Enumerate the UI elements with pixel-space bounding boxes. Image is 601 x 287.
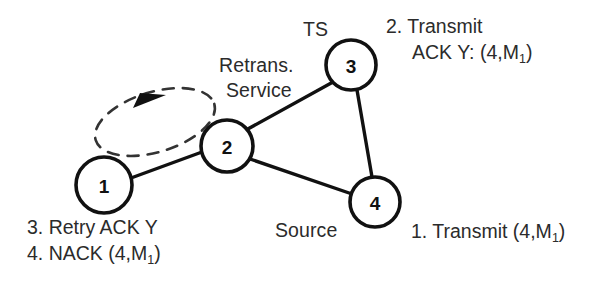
label-retrans: Retrans. — [219, 53, 294, 78]
annotation-transmit-ack-line2: ACK Y: (4,M1) — [386, 39, 532, 72]
loop-arrowhead-icon — [133, 93, 166, 108]
edge-3-4 — [357, 90, 372, 177]
annotation-transmit-line: 1. Transmit (4,M1) — [411, 218, 565, 251]
node-2[interactable]: 2 — [201, 120, 253, 172]
annotation-nack-suffix: ) — [154, 242, 161, 264]
node-2-label: 2 — [222, 137, 233, 158]
node-3[interactable]: 3 — [326, 40, 376, 90]
annotation-retry-nack: 3. Retry ACK Y 4. NACK (4,M1) — [27, 214, 161, 273]
annotation-transmit-prefix: 1. Transmit (4,M — [411, 220, 552, 242]
label-ts: TS — [303, 17, 328, 42]
annotation-transmit-sub: 1 — [552, 231, 559, 245]
annotation-transmit-ack-line2-suffix: ) — [526, 41, 533, 63]
annotation-transmit-ack-line2-prefix: ACK Y: (4,M — [412, 41, 519, 63]
annotation-transmit-ack-line2-sub: 1 — [519, 52, 526, 66]
edge-2-4 — [250, 159, 352, 194]
label-source: Source — [275, 218, 337, 243]
node-3-label: 3 — [346, 56, 357, 77]
node-1-label: 1 — [99, 176, 110, 197]
annotation-nack-prefix: 4. NACK (4,M — [27, 242, 147, 264]
annotation-nack-line: 4. NACK (4,M1) — [27, 240, 161, 273]
label-service: Service — [226, 78, 292, 103]
node-1[interactable]: 1 — [76, 157, 132, 213]
node-4[interactable]: 4 — [350, 177, 400, 227]
annotation-retry-line: 3. Retry ACK Y — [27, 214, 161, 240]
annotation-transmit: 1. Transmit (4,M1) — [411, 218, 565, 251]
annotation-transmit-ack-line1: 2. Transmit — [386, 13, 532, 39]
annotation-transmit-suffix: ) — [559, 220, 566, 242]
edge-1-2 — [131, 152, 202, 178]
annotation-transmit-ack: 2. Transmit ACK Y: (4,M1) — [386, 13, 532, 72]
node-4-label: 4 — [370, 193, 381, 214]
diagram-canvas: 1 2 3 4 TS Retrans. Service Source 2. Tr… — [0, 0, 601, 287]
